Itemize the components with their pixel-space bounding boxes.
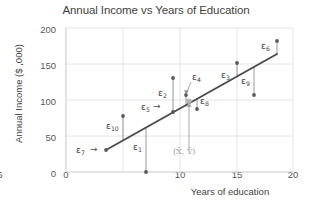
label-e5: ε5: [141, 102, 150, 113]
scatter-chart: Annual Income vs Years of Education Annu…: [0, 0, 312, 204]
label-e10: ε10: [106, 121, 119, 132]
data-point-e9: [252, 93, 256, 97]
label-e4-sub: 4: [197, 76, 201, 83]
data-point-e6: [275, 39, 279, 43]
label-e5-sub: 5: [146, 106, 150, 113]
data-point-e7: [104, 148, 108, 152]
arrow-e5: →: [153, 101, 161, 111]
plot-surface: ε1 ε2 ε3 ε4 ε5 → ε6 ε7 → ε8: [0, 0, 312, 204]
label-e7-sub: 7: [81, 149, 85, 156]
label-e9: ε9: [241, 76, 250, 87]
mean-point-connector: [186, 98, 191, 150]
arrow-e7: →: [90, 144, 98, 154]
label-e1: ε1: [133, 142, 142, 153]
data-point-e10: [121, 114, 125, 118]
label-e7: ε7: [76, 145, 85, 156]
label-e6-sub: 6: [266, 45, 270, 52]
data-point-e2: [171, 76, 175, 80]
label-e2: ε2: [158, 88, 167, 99]
data-point-e8: [195, 107, 199, 111]
label-e8: ε8: [200, 96, 209, 107]
label-e4: ε4: [192, 72, 201, 83]
label-e8-sub: 8: [205, 100, 209, 107]
leader-lines: [184, 82, 191, 95]
data-point-e5: [171, 110, 175, 114]
label-e3-sub: 3: [226, 74, 230, 81]
label-e2-sub: 2: [163, 92, 167, 99]
label-e9-sub: 9: [246, 80, 250, 87]
label-e1-sub: 1: [138, 146, 142, 153]
data-point-e3: [235, 61, 239, 65]
mean-point-label: (X̄, Ȳ): [173, 147, 195, 156]
data-point-e1: [144, 170, 148, 174]
label-e3: ε3: [221, 70, 230, 81]
label-e6: ε6: [261, 41, 270, 52]
label-e10-sub: 10: [111, 125, 119, 132]
